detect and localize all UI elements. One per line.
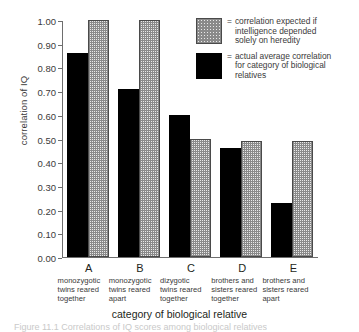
- y-axis-title: correlation of IQ: [18, 46, 29, 176]
- bar-expected-b: [139, 20, 160, 257]
- y-tick-label: 0.40: [38, 158, 57, 169]
- bar-expected-e: [292, 141, 313, 257]
- y-tick-label: 0.30: [38, 181, 57, 192]
- y-tick-mark: [58, 92, 62, 93]
- legend-entry-expected: =correlation expected ifintelligence dep…: [196, 17, 356, 46]
- legend-label: actual average correlationfor category o…: [235, 52, 355, 81]
- legend-swatch-solid-black: [196, 53, 222, 79]
- y-tick-mark: [58, 187, 62, 188]
- y-tick-mark: [58, 258, 62, 259]
- x-axis-title: category of biological relative: [0, 308, 359, 320]
- category-description-line: sisters reared: [262, 285, 324, 294]
- y-tick-label: 0.60: [38, 110, 57, 121]
- y-tick-mark: [58, 140, 62, 141]
- y-tick-mark: [58, 116, 62, 117]
- legend-swatch-checkered-gray: [196, 18, 222, 44]
- category-description-line: brothers and: [262, 276, 324, 285]
- legend-label-line: relatives: [235, 71, 355, 81]
- y-tick-label: 0.50: [38, 134, 57, 145]
- bar-expected-d: [241, 141, 262, 257]
- y-tick-label: 1.00: [38, 16, 57, 27]
- y-tick-mark: [58, 163, 62, 164]
- legend-entry-actual: =actual average correlationfor category …: [196, 52, 356, 81]
- y-tick-label: 0.80: [38, 63, 57, 74]
- y-tick-mark: [58, 234, 62, 235]
- y-tick-label: 0.00: [38, 253, 57, 264]
- bar-expected-a: [88, 20, 109, 257]
- category-description-line: apart: [262, 294, 324, 303]
- y-tick-label: 0.90: [38, 39, 57, 50]
- bar-group-a: [67, 20, 111, 257]
- y-tick-mark: [58, 45, 62, 46]
- legend-label-line: solely on heredity: [235, 36, 355, 46]
- y-tick-label: 0.70: [38, 87, 57, 98]
- legend-equals-sign: =: [227, 17, 232, 27]
- bar-actual-c: [169, 115, 190, 257]
- figure-caption: Figure 11.1 Correlations of IQ scores am…: [14, 322, 267, 332]
- category-letter-e: E: [259, 262, 327, 274]
- bar-actual-a: [67, 53, 88, 257]
- y-tick-label: 0.20: [38, 205, 57, 216]
- chart-legend: =correlation expected ifintelligence dep…: [196, 17, 356, 87]
- bar-actual-e: [271, 203, 292, 258]
- y-axis-line: [62, 21, 63, 258]
- legend-equals-sign: =: [227, 52, 232, 62]
- y-tick-label: 0.10: [38, 229, 57, 240]
- category-description-e: brothers andsisters rearedapart: [262, 276, 324, 304]
- x-axis-line: [62, 257, 318, 258]
- bar-actual-b: [118, 89, 139, 257]
- bar-actual-d: [220, 148, 241, 257]
- bar-group-b: [118, 20, 162, 257]
- bar-expected-c: [190, 139, 211, 258]
- y-tick-mark: [58, 68, 62, 69]
- y-tick-mark: [58, 21, 62, 22]
- y-tick-mark: [58, 211, 62, 212]
- legend-label: correlation expected ifintelligence depe…: [235, 17, 355, 46]
